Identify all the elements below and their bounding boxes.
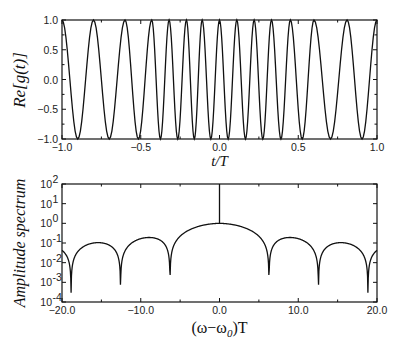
bottom-ytick-exponent: -4	[53, 291, 62, 303]
top-plot: −1.0 −0.5 0.0 0.5 1.0 1.0 0.5 0.0 −0.5 −…	[10, 14, 384, 169]
top-xtick-label: 1.0	[370, 141, 385, 153]
amplitude-spectrum-line	[62, 223, 377, 292]
bottom-xtick-label: 20.0	[367, 304, 388, 316]
bottom-ytick-label: 10	[40, 257, 52, 269]
bottom-xtick-label: 0.0	[212, 304, 227, 316]
bottom-ytick-exponent: 0	[53, 212, 59, 224]
top-xtick-label: 0.5	[291, 141, 306, 153]
bottom-ytick-label: 10	[40, 217, 52, 229]
bottom-xtick-label: 10.0	[288, 304, 309, 316]
bottom-ytick-label: 10	[40, 276, 52, 288]
bottom-plot: −20.0 −10.0 0.0 10.0 20.0 10210110010-11…	[11, 173, 387, 339]
bottom-ytick-exponent: -3	[53, 271, 62, 283]
xlabel-main: (ω−ω	[191, 319, 226, 337]
xlabel-end: )T	[232, 319, 247, 337]
top-ytick-label: 0.0	[43, 74, 58, 86]
top-y-axis-title: Re[g(t)]	[10, 52, 29, 109]
bottom-ytick-label: 10	[40, 198, 52, 210]
bottom-ytick-label: 10	[40, 237, 52, 249]
bottom-ytick-exponent: -2	[53, 252, 62, 264]
top-x-axis-title: t/T	[211, 153, 229, 169]
bottom-ytick-exponent: 2	[53, 173, 59, 185]
top-ytick-label: 1.0	[43, 14, 58, 26]
top-xtick-label: 0.0	[212, 141, 227, 153]
bottom-xtick-label: −20.0	[49, 304, 76, 316]
top-xtick-label: −0.5	[130, 141, 151, 153]
bottom-ytick-labels: 10210110010-110-210-310-4	[40, 173, 62, 308]
bottom-xtick-label: −10.0	[127, 304, 154, 316]
top-ytick-label: 0.5	[43, 44, 58, 56]
top-ytick-label: −1.0	[37, 133, 58, 145]
bottom-ytick-exponent: 1	[53, 193, 59, 205]
bottom-x-axis-title: (ω−ω0)T	[191, 319, 247, 339]
figure: −1.0 −0.5 0.0 0.5 1.0 1.0 0.5 0.0 −0.5 −…	[0, 0, 400, 348]
top-plot-frame	[62, 20, 377, 139]
top-ytick-label: −0.5	[37, 103, 58, 115]
top-signal-line	[62, 20, 377, 139]
bottom-ytick-label: 10	[40, 178, 52, 190]
bottom-ytick-label: 10	[40, 296, 52, 308]
bottom-ytick-exponent: -1	[53, 232, 62, 244]
top-ticks	[62, 20, 377, 139]
bottom-y-axis-title: Amplitude spectrum	[11, 179, 29, 308]
